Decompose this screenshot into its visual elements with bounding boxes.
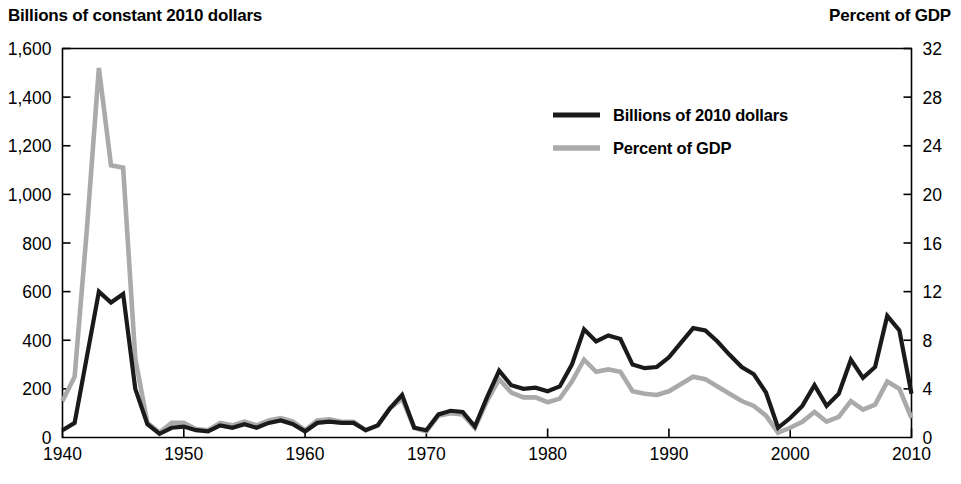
x-tick-label: 2000 [771,444,810,464]
x-tick-label: 1970 [407,444,446,464]
chart-legend: Billions of 2010 dollarsPercent of GDP [553,106,788,157]
x-tick-label: 1960 [286,444,325,464]
left-tick-label: 200 [22,379,51,399]
deficit-chart-figure: Billions of constant 2010 dollars Percen… [0,0,961,484]
x-tick-label: 1980 [528,444,567,464]
right-tick-label: 28 [923,88,942,108]
x-tick-label: 1950 [164,444,203,464]
right-tick-label: 24 [923,136,943,156]
left-tick-label: 800 [22,234,51,254]
chart-canvas: 02004006008001,0001,2001,4001,600 048121… [0,0,961,484]
left-tick-label: 1,400 [8,88,52,108]
left-tick-label: 1,000 [8,185,52,205]
series-line-billions [63,292,912,434]
right-tick-label: 8 [923,331,933,351]
plot-area: 02004006008001,0001,2001,4001,600 048121… [0,0,961,484]
right-tick-label: 16 [923,234,942,254]
x-axis-ticks: 19401950196019701980199020002010 [43,429,931,464]
left-axis-ticks: 02004006008001,0001,2001,4001,600 [8,39,71,448]
x-tick-label: 2010 [892,444,931,464]
legend-label-percent-of-gdp: Percent of GDP [613,139,731,157]
right-tick-label: 20 [923,185,943,205]
left-tick-label: 400 [22,331,51,351]
legend-label-billions: Billions of 2010 dollars [613,106,788,124]
right-tick-label: 4 [923,379,933,399]
left-tick-label: 1,200 [8,136,52,156]
x-tick-label: 1990 [649,444,688,464]
left-tick-label: 600 [22,282,51,302]
right-tick-label: 12 [923,282,942,302]
right-tick-label: 32 [923,39,942,59]
left-tick-label: 1,600 [8,39,52,59]
x-tick-label: 1940 [43,444,82,464]
